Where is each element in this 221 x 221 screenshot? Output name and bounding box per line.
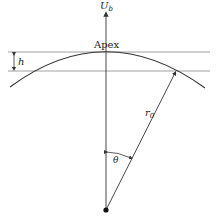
theta-angle-arc [106, 152, 131, 158]
theta-label: θ [113, 155, 119, 165]
radius-label: r0 [145, 107, 155, 120]
apex-label: Apex [93, 39, 120, 50]
bubble-diagram: Ub Apex h r0 θ [0, 0, 221, 221]
bubble-surface-arc [10, 52, 205, 88]
height-label: h [18, 56, 24, 67]
radius-line [106, 73, 175, 210]
center-point [103, 207, 108, 212]
velocity-label: Ub [100, 0, 113, 13]
